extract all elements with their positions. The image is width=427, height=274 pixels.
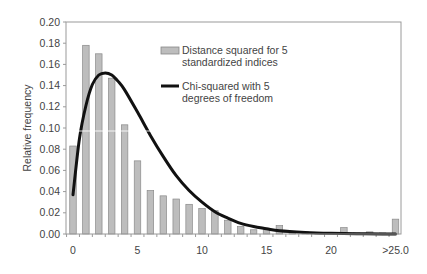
- histogram-bar: [392, 219, 399, 234]
- legend-bar-label-1: Distance squared for 5: [182, 44, 288, 56]
- legend-bar-swatch: [161, 47, 179, 54]
- histogram-bar: [199, 209, 206, 234]
- y-tick-label: 0.18: [40, 37, 61, 49]
- y-axis-label: Relative frequency: [21, 84, 33, 172]
- histogram-bar: [237, 227, 244, 234]
- y-tick-label: 0.00: [40, 228, 61, 240]
- legend-bar-label-2: standardized indices: [182, 56, 278, 68]
- x-tick-label: 0: [70, 244, 76, 256]
- y-tick-label: 0.14: [40, 79, 61, 91]
- histogram-bar: [108, 78, 115, 234]
- y-tick-label: 0.02: [40, 206, 61, 218]
- legend-line-label-2: degrees of freedom: [182, 92, 273, 104]
- histogram-bar: [250, 230, 257, 234]
- histogram-bar: [96, 54, 103, 234]
- legend-line-label-1: Chi-squared with 5: [182, 80, 270, 92]
- histogram-bar: [225, 220, 232, 234]
- histogram-bar: [147, 191, 154, 234]
- y-axis-ticks: 0.000.020.040.060.080.100.120.140.160.18…: [40, 16, 66, 240]
- y-tick-label: 0.20: [40, 16, 61, 28]
- y-tick-label: 0.16: [40, 58, 61, 70]
- x-tick-label: 10: [196, 244, 208, 256]
- y-tick-label: 0.04: [40, 185, 61, 197]
- legend: Distance squared for 5 standardized indi…: [161, 44, 288, 104]
- y-tick-label: 0.08: [40, 143, 61, 155]
- y-tick-label: 0.12: [40, 100, 61, 112]
- histogram-bar: [121, 125, 128, 234]
- histogram-bar: [83, 45, 90, 234]
- histogram-bar: [173, 199, 180, 234]
- x-tick-label: 5: [135, 244, 141, 256]
- x-axis-ticks: 05101520>25.0: [67, 234, 409, 256]
- histogram-bar: [186, 204, 193, 234]
- x-tick-label: >25.0: [382, 244, 409, 256]
- chart: 0.000.020.040.060.080.100.120.140.160.18…: [0, 0, 427, 274]
- x-tick-label: 20: [325, 244, 337, 256]
- histogram-bar: [160, 196, 167, 234]
- y-tick-label: 0.06: [40, 164, 61, 176]
- x-tick-label: 15: [261, 244, 273, 256]
- histogram-bar: [134, 161, 141, 234]
- bar-series: [70, 45, 399, 234]
- y-tick-label: 0.10: [40, 122, 61, 134]
